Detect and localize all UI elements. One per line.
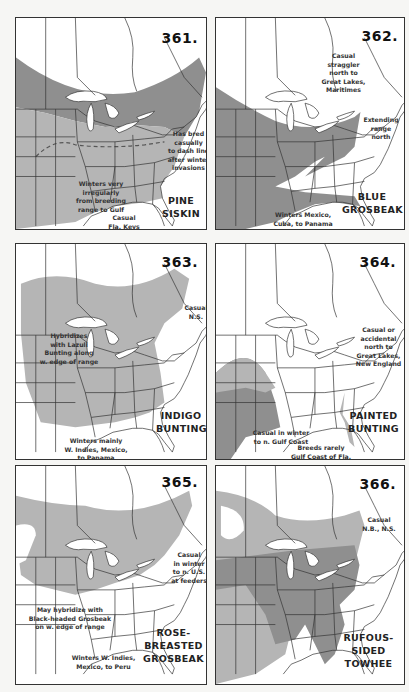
map-note: Casual Fla. Keys: [104, 214, 144, 230]
map-panel-364: 364. Casual or accidental north to Great…: [215, 243, 405, 460]
map-note: Winters mainly W. Indies, Mexico, to Pan…: [56, 437, 136, 460]
map-number: 365.: [161, 474, 198, 490]
map-panel-365: 365. Casual in winter to n. U.S. at feed…: [15, 465, 207, 685]
map-number: 361.: [161, 30, 198, 46]
map-number: 362.: [361, 28, 398, 44]
map-note: Extending range north: [356, 116, 405, 142]
map-panel-366: 366. Casual N.B., N.S. RUFOUS-SIDED TOWH…: [215, 465, 405, 685]
map-note: Winters W. Indies, Mexico, to Peru: [66, 654, 141, 671]
map-note: Casual or accidental north to Great Lake…: [351, 326, 405, 369]
map-note: Casual in winter to n. U.S. at feeders: [169, 551, 207, 585]
map-note: Breeds rarely Gulf Coast of Fla.: [286, 444, 356, 460]
map-number: 364.: [359, 254, 396, 270]
map-note: Casual N.B., N.S.: [359, 516, 399, 533]
map-note: Hybridizes with Lazuli Bunting along w. …: [38, 332, 100, 366]
species-name: BLUE GROSBEAK: [342, 190, 402, 216]
map-number: 366.: [359, 476, 396, 492]
map-note: Has bred casually to dash line after win…: [161, 130, 207, 173]
species-name: RUFOUS-SIDED TOWHEE: [331, 631, 405, 670]
map-note: Casual straggler north to Great Lakes, M…: [316, 52, 371, 95]
map-note: Winters Mexico, Cuba, to Panama: [268, 211, 338, 228]
map-panel-362: 362. Casual straggler north to Great Lak…: [215, 17, 405, 230]
map-panel-361: 361. Has bred casually to dash line afte…: [15, 17, 207, 230]
map-note: May hybridize with Black-headed Grosbeak…: [26, 606, 114, 632]
species-name: INDIGO BUNTING: [156, 409, 206, 435]
species-name: PINE SISKIN: [156, 194, 206, 220]
map-panel-363: 363. Casual N.S. Hybridizes with Lazuli …: [15, 243, 207, 460]
map-number: 363.: [161, 254, 198, 270]
map-note: Casual N.S.: [181, 304, 207, 321]
map-note: Winters very irregularly from breeding r…: [71, 180, 131, 214]
species-name: PAINTED BUNTING: [346, 409, 401, 435]
species-name: ROSE-BREASTED GROSBEAK: [136, 626, 207, 665]
